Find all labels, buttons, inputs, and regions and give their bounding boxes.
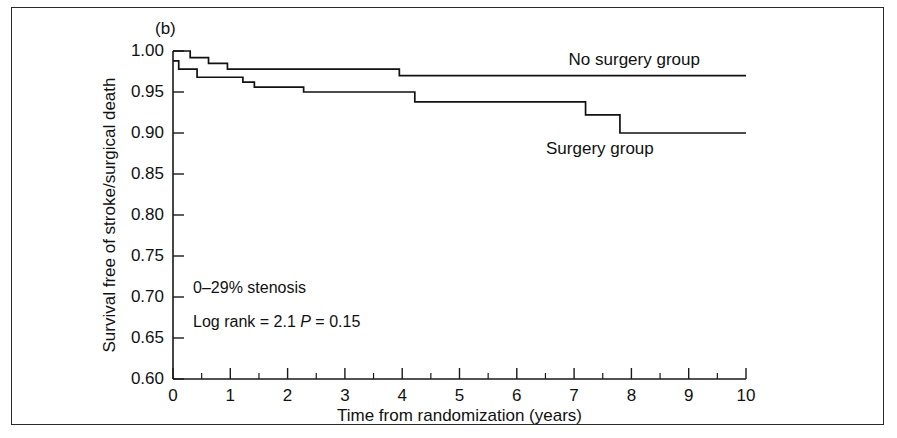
curve-surgery-group bbox=[173, 61, 746, 133]
x-tick-label: 3 bbox=[340, 386, 349, 405]
annotation-p-value: = 0.15 bbox=[311, 313, 360, 330]
x-tick-label: 9 bbox=[684, 386, 693, 405]
y-axis-title: Survival free of stroke/surgical death bbox=[100, 78, 119, 353]
x-tick-label: 10 bbox=[737, 386, 756, 405]
x-tick-label: 2 bbox=[283, 386, 292, 405]
y-tick-label: 0.80 bbox=[131, 205, 164, 224]
curve-label-no-surgery-group: No surgery group bbox=[569, 50, 700, 69]
y-tick-label: 0.90 bbox=[131, 123, 164, 142]
y-tick-label: 1.00 bbox=[131, 41, 164, 60]
figure-container: 0.600.650.700.750.800.850.900.951.000123… bbox=[0, 0, 897, 438]
y-tick-label: 0.85 bbox=[131, 164, 164, 183]
y-tick-label: 0.65 bbox=[131, 328, 164, 347]
x-tick-label: 4 bbox=[397, 386, 406, 405]
x-tick-label: 8 bbox=[627, 386, 636, 405]
annotation-p-symbol: P bbox=[300, 313, 311, 330]
curve-label-surgery-group: Surgery group bbox=[546, 139, 654, 158]
panel-label: (b) bbox=[155, 19, 176, 38]
annotation-stenosis: 0–29% stenosis bbox=[193, 279, 306, 296]
x-tick-label: 1 bbox=[226, 386, 235, 405]
x-tick-label: 0 bbox=[168, 386, 177, 405]
y-tick-label: 0.95 bbox=[131, 82, 164, 101]
x-tick-label: 6 bbox=[512, 386, 521, 405]
y-tick-label: 0.75 bbox=[131, 246, 164, 265]
y-tick-label: 0.60 bbox=[131, 369, 164, 388]
x-tick-label: 7 bbox=[569, 386, 578, 405]
figure-frame: 0.600.650.700.750.800.850.900.951.000123… bbox=[11, 7, 884, 425]
survival-chart: 0.600.650.700.750.800.850.900.951.000123… bbox=[12, 8, 885, 426]
x-tick-label: 5 bbox=[455, 386, 464, 405]
y-tick-label: 0.70 bbox=[131, 287, 164, 306]
x-axis-title: Time from randomization (years) bbox=[337, 406, 582, 425]
annotation-logrank: Log rank = 2.1 P = 0.15 bbox=[193, 313, 360, 330]
